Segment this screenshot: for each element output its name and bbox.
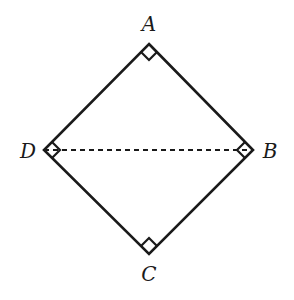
right-angle-mark-c	[141, 238, 157, 246]
right-angle-mark-a	[141, 52, 157, 60]
vertex-label-b: B	[262, 139, 278, 163]
vertex-label-d: D	[19, 139, 36, 163]
vertex-label-c: C	[141, 262, 156, 286]
square-diagram: A B C D	[0, 0, 294, 300]
vertex-label-a: A	[140, 12, 156, 36]
